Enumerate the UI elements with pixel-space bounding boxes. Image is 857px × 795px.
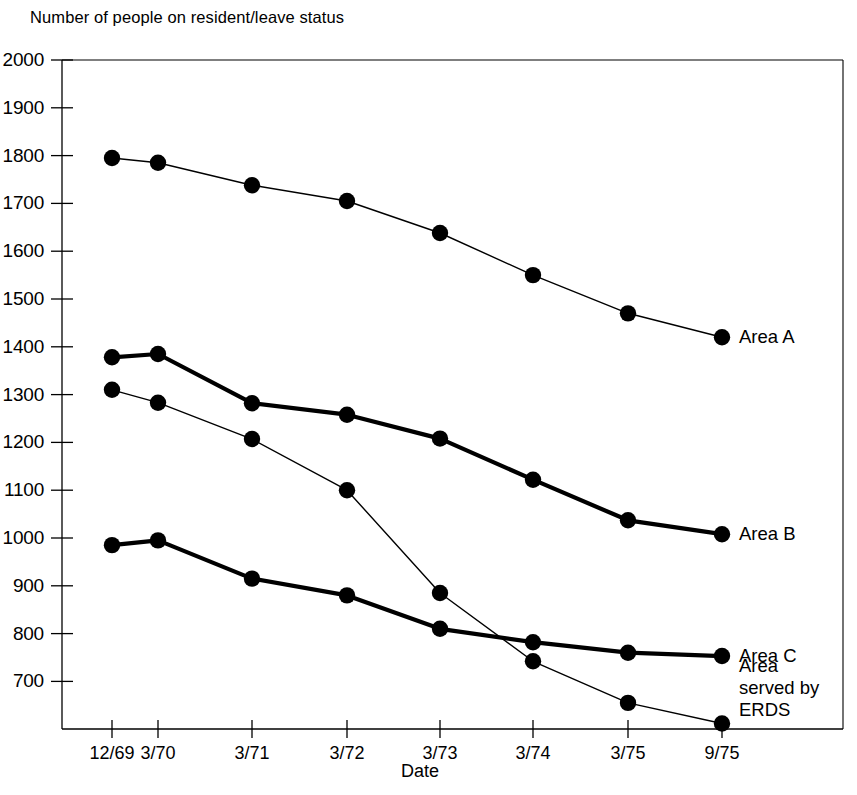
y-tick-label: 1000	[0, 527, 44, 549]
x-tick-label: 9/75	[672, 743, 772, 764]
data-point	[714, 329, 730, 345]
data-point	[432, 225, 448, 241]
data-point	[104, 150, 120, 166]
data-point	[525, 471, 541, 487]
y-tick-label: 1300	[0, 384, 44, 406]
x-tick-label: 3/71	[202, 743, 302, 764]
y-tick-label: 800	[0, 623, 44, 645]
data-point	[432, 585, 448, 601]
series-label-area-a: Area A	[739, 326, 795, 348]
data-point	[714, 648, 730, 664]
erds-label-line-2: served by	[739, 677, 819, 698]
data-point	[620, 645, 636, 661]
data-point	[339, 406, 355, 422]
series-label-area-b: Area B	[739, 523, 796, 545]
series-line-1	[112, 354, 722, 534]
data-point	[244, 570, 260, 586]
y-tick-label: 700	[0, 670, 44, 692]
data-point	[104, 382, 120, 398]
data-point	[620, 305, 636, 321]
data-point	[432, 621, 448, 637]
y-tick-label: 1900	[0, 97, 44, 119]
y-tick-label: 900	[0, 575, 44, 597]
plot-area	[0, 0, 857, 795]
data-point	[620, 695, 636, 711]
data-point	[339, 587, 355, 603]
data-point	[150, 395, 166, 411]
erds-label-line-3: ERDS	[739, 699, 790, 720]
y-tick-label: 1600	[0, 240, 44, 262]
data-point	[150, 346, 166, 362]
data-point	[620, 512, 636, 528]
y-tick-label: 1100	[0, 479, 44, 501]
y-tick-label: 1700	[0, 192, 44, 214]
x-axis-title: Date	[320, 761, 520, 782]
data-point	[244, 177, 260, 193]
data-point	[104, 349, 120, 365]
chart-container: Number of people on resident/leave statu…	[0, 0, 857, 795]
data-point	[525, 653, 541, 669]
y-tick-label: 1800	[0, 145, 44, 167]
data-point	[525, 634, 541, 650]
data-point	[525, 267, 541, 283]
series-line-2	[112, 540, 722, 656]
series-lines	[104, 150, 730, 732]
data-point	[714, 526, 730, 542]
erds-label-line-1: Area	[739, 655, 778, 676]
data-point	[244, 431, 260, 447]
y-tick-label: 1500	[0, 288, 44, 310]
series-label-erds: Area served by ERDS	[739, 655, 819, 720]
x-tick-label: 3/70	[108, 743, 208, 764]
data-point	[150, 155, 166, 171]
x-tick-label: 3/75	[578, 743, 678, 764]
y-tick-label: 2000	[0, 49, 44, 71]
data-point	[150, 532, 166, 548]
data-point	[714, 715, 730, 731]
data-point	[432, 430, 448, 446]
data-point	[104, 537, 120, 553]
axis-lines	[51, 60, 843, 738]
data-point	[339, 193, 355, 209]
y-tick-label: 1200	[0, 431, 44, 453]
data-point	[339, 482, 355, 498]
data-point	[244, 395, 260, 411]
y-tick-label: 1400	[0, 336, 44, 358]
